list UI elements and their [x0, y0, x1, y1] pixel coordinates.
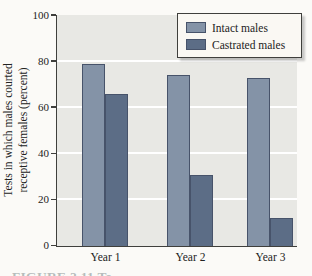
- x-label-year-1: Year 1: [71, 251, 141, 263]
- y-tick-80: [51, 60, 56, 62]
- bar-chart-figure: Tests in which males courted receptive f…: [0, 0, 312, 276]
- bar-intact-males-year-1: [82, 64, 105, 246]
- bar-castrated-males-year-1: [105, 94, 128, 246]
- y-tick-20: [51, 199, 56, 201]
- y-tick-100: [51, 14, 56, 16]
- y-tick-label-100: 100: [16, 9, 49, 22]
- cropped-figure-caption: FIGURE 2.11 Te: [12, 269, 304, 276]
- y-tick-label-60: 60: [16, 101, 49, 114]
- y-tick-label-0: 0: [16, 239, 49, 252]
- legend-label-castrated-males: Castrated males: [212, 39, 285, 51]
- legend-label-intact-males: Intact males: [212, 22, 268, 34]
- y-tick-40: [51, 153, 56, 155]
- x-label-year-3: Year 3: [236, 251, 306, 263]
- legend-item-castrated-males: Castrated males: [178, 36, 301, 53]
- y-tick-label-80: 80: [16, 55, 49, 68]
- bar-castrated-males-year-3: [270, 218, 293, 246]
- legend-item-intact-males: Intact males: [178, 19, 301, 36]
- bar-intact-males-year-2: [167, 75, 190, 246]
- y-tick-60: [51, 106, 56, 108]
- y-axis-title-line2: receptive females (percent): [16, 10, 31, 250]
- bar-intact-males-year-3: [247, 78, 270, 246]
- x-label-year-2: Year 2: [156, 251, 226, 263]
- legend: Intact males Castrated males: [177, 13, 302, 58]
- y-tick-0: [51, 245, 56, 247]
- y-tick-label-40: 40: [16, 147, 49, 160]
- gridline-80: [57, 60, 297, 62]
- bar-castrated-males-year-2: [190, 175, 213, 246]
- intact-males-swatch: [186, 22, 206, 33]
- castrated-males-swatch: [186, 39, 206, 50]
- y-tick-label-20: 20: [16, 193, 49, 206]
- y-axis-title-line1: Tests in which males courted: [1, 10, 16, 250]
